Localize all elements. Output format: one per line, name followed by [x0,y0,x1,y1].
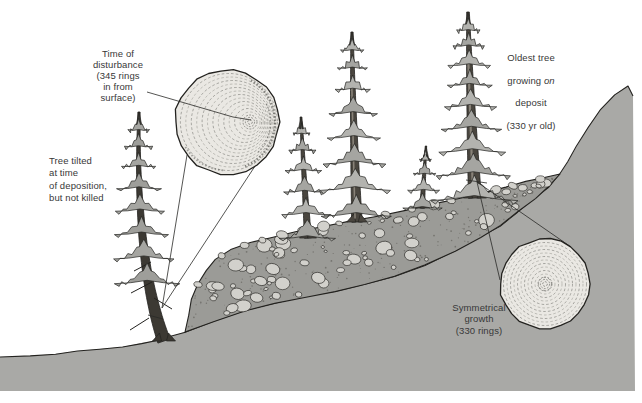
section-face [175,70,280,175]
label-oldest-tree-line1: Oldest tree [506,52,555,63]
figure-dendrochronology-deposit-diagram: Time of disturbance (345 rings in from s… [0,0,642,403]
oldest-conifer-tree [431,12,518,204]
dead-branch-stub [130,318,149,330]
label-symmetrical-growth: Symmetrical growth (330 rings) [452,302,505,336]
tree-ring-section-symmetrical [501,239,591,329]
label-oldest-tree-line4: (330 yr old) [506,120,555,131]
label-oldest-tree-line2: growing on [506,75,555,86]
conifer-tree-3 [320,32,391,222]
tree-ring-section-disturbed [175,70,280,175]
foliage-tier [293,123,310,136]
label-time-of-disturbance: Time of disturbance (345 rings in from s… [93,48,143,103]
tilted-conifer-tree [114,112,180,343]
foliage-tier [420,150,432,162]
label-tree-tilted: Tree tilted at time of deposition, but n… [49,155,107,205]
foliage-tier [413,162,435,176]
label-oldest-tree-line3: deposit [506,97,555,108]
trunk [300,117,311,238]
label-oldest-tree: Oldest tree growing on deposit (330 yr o… [506,41,555,143]
